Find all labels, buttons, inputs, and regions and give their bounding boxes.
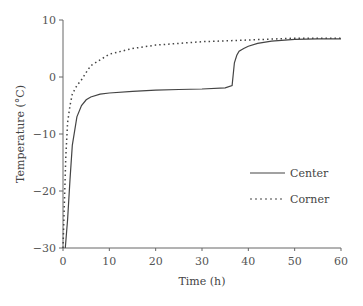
temperature-chart: −30−20−10010 0102030405060 Time (h) Temp… [0, 0, 363, 306]
x-tick-label: 20 [149, 255, 163, 268]
series-corner-line [63, 38, 341, 248]
x-ticks: 0102030405060 [60, 248, 349, 268]
x-tick-label: 50 [288, 255, 302, 268]
legend-center-label: Center [290, 167, 329, 180]
x-axis-label: Time (h) [179, 275, 226, 288]
legend-corner-label: Corner [290, 193, 330, 206]
series-center-line [65, 39, 341, 248]
series-lines [63, 38, 341, 248]
y-tick-label: −30 [33, 242, 56, 255]
y-ticks: −30−20−10010 [33, 14, 63, 255]
x-tick-label: 60 [334, 255, 348, 268]
y-axis-label: Temperature (°C) [14, 85, 27, 183]
x-tick-label: 0 [60, 255, 67, 268]
x-tick-label: 10 [102, 255, 116, 268]
y-tick-label: 0 [49, 71, 56, 84]
y-tick-label: −20 [33, 185, 56, 198]
legend: Center Corner [250, 167, 330, 206]
y-tick-label: 10 [42, 14, 56, 27]
y-tick-label: −10 [33, 128, 56, 141]
axes [63, 20, 341, 248]
x-tick-label: 40 [241, 255, 255, 268]
x-tick-label: 30 [195, 255, 209, 268]
